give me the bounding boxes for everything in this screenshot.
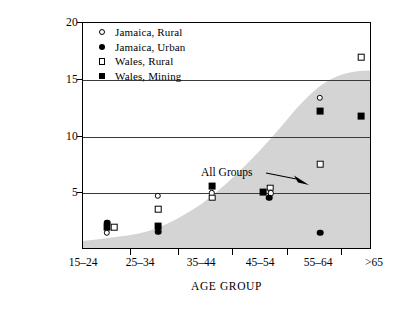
x-tick-mark-4 bbox=[287, 249, 288, 255]
y-tick-label-15: 15 bbox=[52, 73, 78, 85]
data-point-wales-mining-over-65 bbox=[358, 112, 365, 119]
data-point-wales-rural-15-24 bbox=[111, 224, 118, 231]
data-point-wales-rural-55-64 bbox=[317, 161, 324, 168]
legend-label-jamaica-rural: Jamaica, Rural bbox=[115, 25, 182, 40]
legend-label-jamaica-urban: Jamaica, Urban bbox=[115, 40, 186, 55]
filled-circle-icon bbox=[94, 44, 110, 51]
legend-item-jamaica-urban: Jamaica, Urban bbox=[94, 40, 186, 55]
x-tick-label-25-34: 25–34 bbox=[126, 256, 155, 268]
data-point-jamaica-urban-55-64 bbox=[317, 230, 324, 237]
x-tick-label-55-64: 55–64 bbox=[304, 256, 333, 268]
x-tick-label-15-24: 15–24 bbox=[69, 256, 98, 268]
legend-label-wales-rural: Wales, Rural bbox=[115, 54, 173, 69]
data-point-wales-mining-35-44 bbox=[209, 183, 216, 190]
x-tick-mark-2 bbox=[178, 249, 179, 255]
filled-square-icon bbox=[94, 73, 110, 80]
chart-legend: Jamaica, Rural Jamaica, Urban Wales, Rur… bbox=[94, 25, 186, 83]
gridline-10 bbox=[83, 137, 370, 138]
data-point-jamaica-urban-45-54 bbox=[266, 195, 273, 202]
bacteriuria-scatter-chart: PERCENT WITH BACTERIURIA 20 15 10 5 bbox=[0, 0, 414, 310]
data-point-wales-rural-over-65 bbox=[358, 54, 365, 61]
x-tick-label-35-44: 35–44 bbox=[187, 256, 216, 268]
x-tick-label-over-65: >65 bbox=[365, 256, 383, 268]
legend-item-wales-mining: Wales, Mining bbox=[94, 69, 186, 84]
data-point-wales-rural-35-44 bbox=[209, 195, 216, 202]
x-axis-title: AGE GROUP bbox=[82, 280, 371, 292]
legend-item-jamaica-rural: Jamaica, Rural bbox=[94, 25, 186, 40]
y-tick-label-20: 20 bbox=[52, 16, 78, 28]
x-tick-mark-3 bbox=[232, 249, 233, 255]
x-tick-mark-1 bbox=[130, 249, 131, 255]
data-point-wales-rural-25-34 bbox=[155, 206, 162, 213]
data-point-jamaica-rural-25-34 bbox=[155, 192, 161, 198]
data-point-wales-mining-55-64 bbox=[317, 108, 324, 115]
y-axis-title-wrap: PERCENT WITH BACTERIURIA bbox=[0, 22, 34, 249]
x-tick-mark-5 bbox=[341, 249, 342, 255]
open-square-icon bbox=[94, 58, 110, 65]
legend-label-wales-mining: Wales, Mining bbox=[115, 69, 181, 84]
gridline-5 bbox=[83, 193, 370, 194]
open-circle-icon bbox=[94, 29, 110, 35]
data-point-jamaica-rural-15-24 bbox=[104, 230, 110, 236]
y-tick-label-5: 5 bbox=[52, 186, 78, 198]
legend-item-wales-rural: Wales, Rural bbox=[94, 54, 186, 69]
all-groups-annotation-label: All Groups bbox=[201, 166, 252, 178]
plot-area: All Groups Jamaica, Rural Jamaica, Urban… bbox=[82, 22, 371, 249]
x-tick-label-45-54: 45–54 bbox=[246, 256, 275, 268]
all-groups-annotation-arrow bbox=[265, 167, 317, 191]
data-point-jamaica-urban-25-34 bbox=[155, 229, 162, 236]
y-tick-label-10: 10 bbox=[52, 130, 78, 142]
data-point-jamaica-rural-55-64 bbox=[317, 95, 323, 101]
